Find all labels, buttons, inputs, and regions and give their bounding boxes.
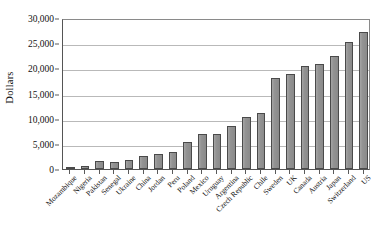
bar [359,32,368,169]
bar [315,64,324,169]
y-axis-tick-mark [55,69,59,70]
y-axis-tick-label: 20,000 [28,64,54,74]
bar [139,156,148,169]
bar-chart: Dollars 30,00025,00020,00015,00010,0005,… [0,0,392,235]
y-axis-tick-label: 0 [49,165,54,175]
bar [227,126,236,169]
bar [66,167,75,169]
y-axis-tick-label: 25,000 [28,39,54,49]
bar [213,134,222,169]
bar [198,134,207,169]
bar [110,162,119,169]
bar [81,166,90,169]
x-axis-tick-labels: MozambiqueNigeriaPakistanSenegalUkraineC… [62,174,382,235]
y-axis-tick-label: 5,000 [33,140,54,150]
bar [257,113,266,169]
bar [330,56,339,169]
bar [286,74,295,169]
bar [125,160,134,169]
bar [154,154,163,169]
bar [95,161,104,169]
plot-area [62,19,370,170]
y-axis-tick-label: 10,000 [28,115,54,125]
y-axis-tick-mark [55,19,59,20]
bar [169,152,178,169]
bars-layer [63,20,369,169]
y-axis-tick-label: 15,000 [28,90,54,100]
y-axis-tick-mark [55,94,59,95]
bar [271,78,280,169]
y-axis-title-label: Dollars [4,71,15,103]
y-axis-tick-mark [55,44,59,45]
bar [345,42,354,169]
y-axis-tick-mark [55,119,59,120]
y-axis-tick-mark [55,144,59,145]
bar [183,142,192,169]
y-axis-tick-mark [55,170,59,171]
bar [242,117,251,169]
bar [301,66,310,169]
y-axis-tick-label: 30,000 [28,14,54,24]
x-axis-tick-label: US [360,174,373,187]
y-axis-tick-labels: 30,00025,00020,00015,00010,0005,0000 [16,0,58,175]
